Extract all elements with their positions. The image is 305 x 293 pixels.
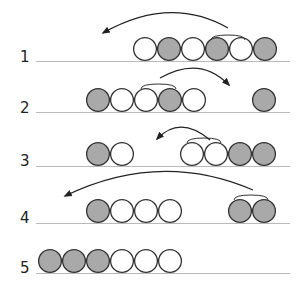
step-number-label: 1 — [20, 48, 30, 66]
step-row-4: 4 — [20, 171, 290, 227]
step-row-1: 1 — [20, 13, 290, 66]
gray-ball — [206, 38, 229, 61]
white-ball — [230, 38, 253, 61]
white-ball — [111, 200, 134, 223]
white-ball — [111, 143, 134, 166]
white-ball — [135, 89, 158, 112]
gray-ball — [63, 250, 86, 273]
step-row-2: 2 — [20, 68, 290, 117]
move-arrow-right-icon — [160, 68, 229, 85]
gray-ball — [87, 200, 110, 223]
gray-ball — [158, 38, 181, 61]
gray-ball — [254, 38, 277, 61]
step-row-5: 5 — [20, 250, 290, 277]
white-ball — [181, 143, 204, 166]
step-number-label: 3 — [20, 152, 30, 170]
white-ball — [111, 250, 134, 273]
gray-ball — [253, 89, 276, 112]
white-ball — [135, 200, 158, 223]
gray-ball — [39, 250, 62, 273]
white-ball — [159, 250, 182, 273]
gray-ball — [253, 143, 276, 166]
step-number-label: 2 — [20, 99, 30, 117]
step-number-label: 4 — [20, 209, 30, 227]
white-ball — [183, 89, 206, 112]
gray-ball — [87, 143, 110, 166]
gray-ball — [87, 250, 110, 273]
step-row-3: 3 — [20, 127, 290, 170]
move-arrow-left-icon — [65, 171, 253, 196]
white-ball — [205, 143, 228, 166]
white-ball — [134, 38, 157, 61]
white-ball — [135, 250, 158, 273]
gray-ball — [253, 200, 276, 223]
gray-ball — [87, 89, 110, 112]
gray-ball — [229, 143, 252, 166]
move-arrow-left-icon — [103, 13, 228, 33]
gray-ball — [229, 200, 252, 223]
gray-ball — [159, 89, 182, 112]
step-number-label: 5 — [20, 259, 30, 277]
white-ball — [182, 38, 205, 61]
white-ball — [111, 89, 134, 112]
white-ball — [159, 200, 182, 223]
ball-sorting-diagram: 12345 — [0, 0, 305, 293]
